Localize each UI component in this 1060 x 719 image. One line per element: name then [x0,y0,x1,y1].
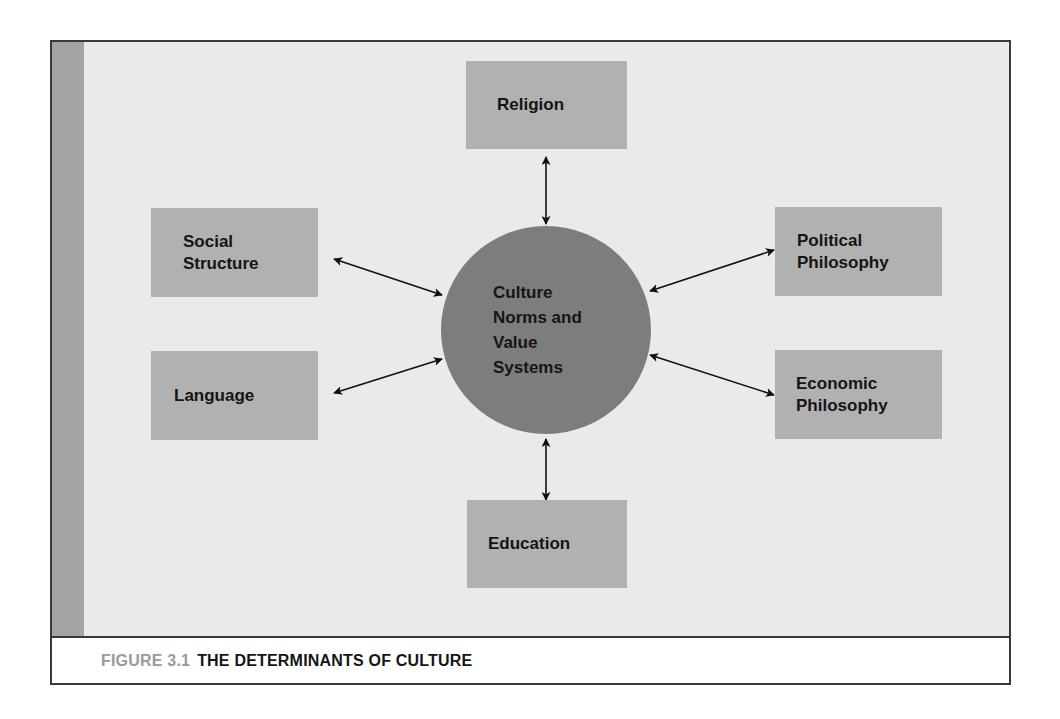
node-economic-philosophy: Economic Philosophy [775,350,942,439]
node-religion: Religion [466,61,627,149]
figure-caption: FIGURE 3.1 THE DETERMINANTS OF CULTURE [52,638,1009,683]
node-education: Education [467,500,627,588]
node-economic-philosophy-label: Economic Philosophy [796,373,888,417]
node-political-philosophy: Political Philosophy [775,207,942,296]
arrow-language [334,359,442,393]
node-political-philosophy-label: Political Philosophy [797,230,889,274]
node-education-label: Education [488,533,570,555]
node-language: Language [151,351,318,440]
figure-number: FIGURE 3.1 [101,652,190,670]
arrow-economic-philosophy [650,355,774,395]
node-religion-label: Religion [497,94,564,116]
diagram-panel: Religion Social Structure Language Polit… [52,42,1009,638]
node-language-label: Language [174,385,254,407]
node-social-structure-label: Social Structure [183,231,259,275]
figure-title: THE DETERMINANTS OF CULTURE [197,652,472,670]
arrow-social-structure [334,259,442,295]
node-culture-norms-value-systems: Culture Norms and Value Systems [441,226,651,434]
arrow-political-philosophy [650,250,774,291]
node-social-structure: Social Structure [151,208,318,297]
figure-frame: Religion Social Structure Language Polit… [50,40,1011,685]
center-label: Culture Norms and Value Systems [493,280,582,380]
